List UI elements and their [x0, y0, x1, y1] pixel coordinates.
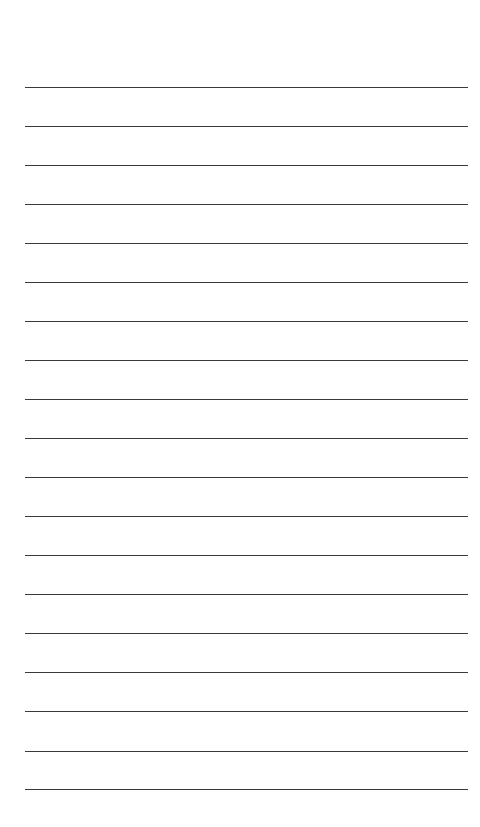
ruled-line	[25, 751, 468, 752]
ruled-line	[25, 321, 468, 322]
ruled-line	[25, 594, 468, 595]
ruled-line	[25, 516, 468, 517]
ruled-line	[25, 360, 468, 361]
ruled-line	[25, 165, 468, 166]
ruled-line	[25, 243, 468, 244]
ruled-line	[25, 87, 468, 88]
ruled-line	[25, 282, 468, 283]
lined-page	[0, 0, 480, 827]
ruled-line	[25, 477, 468, 478]
ruled-line	[25, 711, 468, 712]
ruled-line	[25, 126, 468, 127]
ruled-line	[25, 672, 468, 673]
ruled-line	[25, 789, 468, 790]
ruled-line	[25, 204, 468, 205]
ruled-line	[25, 633, 468, 634]
ruled-line	[25, 555, 468, 556]
ruled-line	[25, 438, 468, 439]
ruled-line	[25, 399, 468, 400]
